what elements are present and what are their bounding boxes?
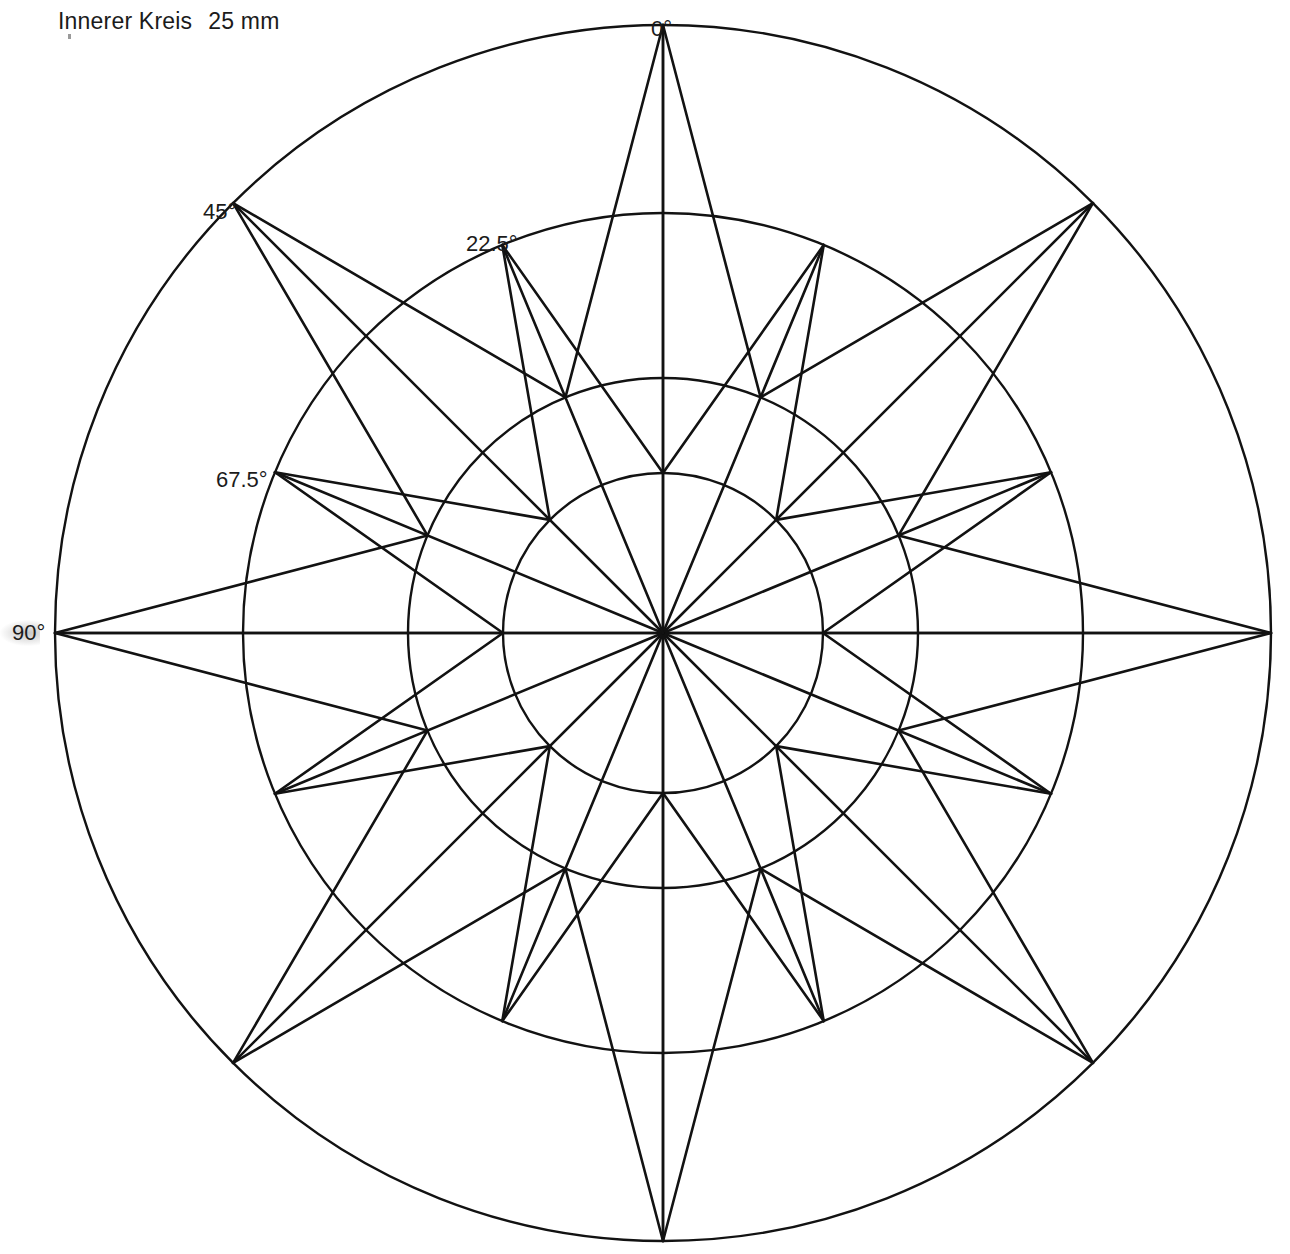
ray-90deg-flank-right [899, 633, 1271, 731]
axis-label-90deg: 90° [12, 620, 45, 646]
caption: Innerer Kreis25 mm [58, 8, 280, 35]
axis-label-45deg: 45° [203, 199, 236, 225]
ray-270deg-flank-left [55, 633, 427, 731]
ray-180deg-flank-left [663, 869, 761, 1241]
axis-label-67-5deg: 67.5° [216, 467, 268, 493]
caption-value: 25 mm [208, 8, 279, 34]
ray-0deg-flank-right [663, 25, 761, 397]
axis-label-22-5deg: 22.5° [466, 231, 518, 257]
compass-rose-canvas: Innerer Kreis25 mm 0°22.5°45°67.5°90° [0, 0, 1290, 1254]
ray-0deg-flank-left [565, 25, 663, 397]
star-ray-group [55, 25, 1271, 1241]
ray-90deg-flank-left [899, 535, 1271, 633]
ray-270deg-flank-right [55, 535, 427, 633]
compass-rose-diagram [0, 0, 1290, 1254]
ray-180deg-flank-right [565, 869, 663, 1241]
scan-speck [68, 34, 71, 39]
axis-label-0deg: 0° [651, 16, 672, 42]
caption-label: Innerer Kreis [58, 8, 192, 34]
